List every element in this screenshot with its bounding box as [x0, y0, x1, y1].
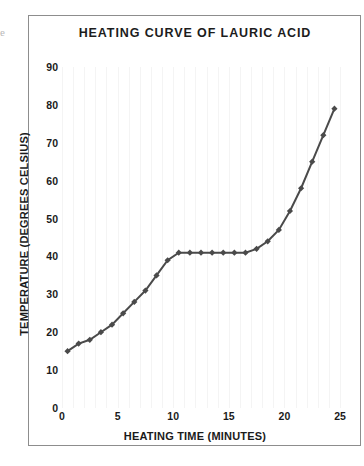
y-tick-label: 50 — [32, 213, 58, 225]
y-tick-label: 60 — [32, 175, 58, 187]
y-tick-label: 70 — [32, 137, 58, 149]
data-point-marker — [231, 250, 237, 256]
data-point-marker — [309, 159, 315, 165]
chart-figure: e HEATING CURVE OF LAURIC ACID 010203040… — [0, 0, 364, 466]
x-axis-ticks: 0510152025 — [0, 410, 364, 428]
data-point-marker — [242, 250, 248, 256]
y-tick-label: 20 — [32, 326, 58, 338]
chart-title: HEATING CURVE OF LAURIC ACID — [34, 26, 356, 40]
y-axis-ticks: 0102030405060708090 — [30, 0, 58, 466]
data-point-marker — [198, 250, 204, 256]
x-tick-label: 5 — [103, 410, 133, 422]
y-tick-label: 80 — [32, 99, 58, 111]
x-axis-label: HEATING TIME (MINUTES) — [34, 430, 356, 442]
data-point-marker — [220, 250, 226, 256]
y-tick-label: 40 — [32, 250, 58, 262]
y-tick-label: 10 — [32, 364, 58, 376]
x-tick-label: 20 — [269, 410, 299, 422]
y-tick-label: 30 — [32, 288, 58, 300]
y-tick-label: 90 — [32, 61, 58, 73]
data-point-marker — [209, 250, 215, 256]
data-series-line — [62, 67, 340, 408]
plot-area — [62, 67, 340, 408]
series-line — [68, 109, 335, 351]
y-axis-label: TEMPERATURE (DEGREES CELSIUS) — [18, 84, 30, 384]
data-point-marker — [320, 132, 326, 138]
x-tick-label: 25 — [325, 410, 355, 422]
x-tick-label: 15 — [214, 410, 244, 422]
data-point-marker — [187, 250, 193, 256]
x-tick-label: 0 — [47, 410, 77, 422]
edge-partial-glyph: e — [0, 24, 10, 40]
data-point-marker — [331, 106, 337, 112]
x-tick-label: 10 — [158, 410, 188, 422]
